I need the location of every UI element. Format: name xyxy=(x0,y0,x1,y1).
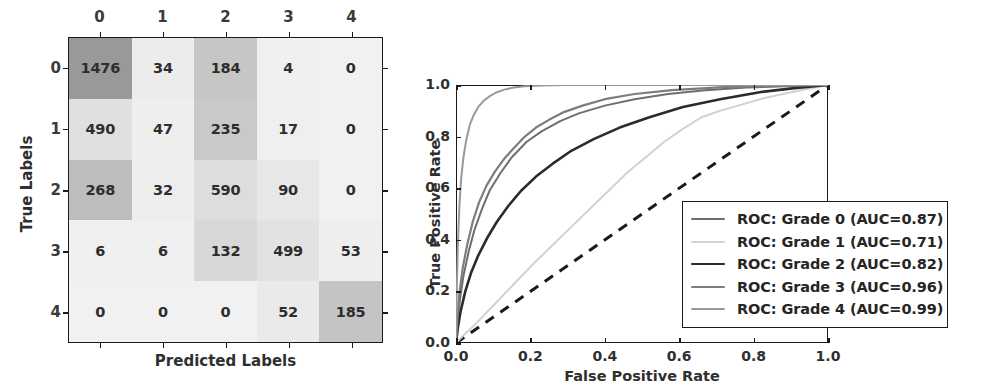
confusion-matrix-cell: 235 xyxy=(194,99,257,160)
confusion-matrix-column-tickmark xyxy=(352,343,354,348)
confusion-matrix-row-tickmark xyxy=(383,129,388,131)
roc-x-tickmark xyxy=(605,338,607,343)
roc-x-tickmark xyxy=(754,85,756,90)
confusion-matrix-column-label: 4 xyxy=(320,8,383,26)
roc-legend-line-swatch xyxy=(691,257,725,271)
confusion-matrix-row-label: 1 xyxy=(44,120,61,138)
roc-legend-label: ROC: Grade 0 (AUC=0.87) xyxy=(737,211,943,227)
confusion-matrix-column-label: 1 xyxy=(131,8,194,26)
roc-x-tick-label: 0.4 xyxy=(585,348,625,364)
confusion-matrix-row-label: 4 xyxy=(44,303,61,321)
confusion-matrix-cell: 90 xyxy=(257,160,320,221)
confusion-matrix-panel: 01234 01234 1476341844049047235170268325… xyxy=(0,0,420,390)
roc-y-tickmark xyxy=(456,291,461,293)
roc-x-tick-label: 0.0 xyxy=(436,348,476,364)
roc-x-tickmark xyxy=(828,338,830,343)
figure-canvas: 01234 01234 1476341844049047235170268325… xyxy=(0,0,989,390)
roc-x-tick-label: 0.8 xyxy=(734,348,774,364)
roc-legend-label: ROC: Grade 1 (AUC=0.71) xyxy=(737,234,943,250)
confusion-matrix-row-label: 3 xyxy=(44,242,61,260)
roc-x-axis-label: False Positive Rate xyxy=(456,368,828,384)
confusion-matrix-cell: 0 xyxy=(319,38,382,99)
roc-legend-item[interactable]: ROC: Grade 0 (AUC=0.87) xyxy=(691,208,937,231)
roc-y-tick-label: 1.0 xyxy=(414,76,450,92)
confusion-matrix-grid: 1476341844049047235170268325909006613249… xyxy=(68,37,383,343)
confusion-matrix-cell: 590 xyxy=(194,160,257,221)
roc-legend-item[interactable]: ROC: Grade 1 (AUC=0.71) xyxy=(691,231,937,254)
confusion-matrix-cell: 34 xyxy=(132,38,195,99)
confusion-matrix-column-tickmark xyxy=(289,343,291,348)
legend-line-icon xyxy=(691,263,725,265)
roc-x-tickmark xyxy=(456,85,458,90)
confusion-matrix-cell: 32 xyxy=(132,160,195,221)
roc-y-tickmark xyxy=(456,188,461,190)
roc-legend: ROC: Grade 0 (AUC=0.87)ROC: Grade 1 (AUC… xyxy=(682,201,948,328)
confusion-matrix-row-tickmark xyxy=(383,190,388,192)
confusion-matrix-cell: 17 xyxy=(257,99,320,160)
confusion-matrix-column-tickmark xyxy=(100,343,102,348)
confusion-matrix-y-axis-label: True Labels xyxy=(18,94,36,274)
roc-y-tickmark xyxy=(456,240,461,242)
roc-x-tickmark xyxy=(456,338,458,343)
roc-legend-item[interactable]: ROC: Grade 2 (AUC=0.82) xyxy=(691,253,937,276)
legend-line-icon xyxy=(691,308,725,310)
confusion-matrix-cell: 0 xyxy=(194,281,257,342)
roc-y-tickmark xyxy=(456,137,461,139)
roc-x-tickmark xyxy=(530,338,532,343)
confusion-matrix-column-label: 2 xyxy=(194,8,257,26)
confusion-matrix-column-tickmark xyxy=(226,343,228,348)
roc-x-tickmark xyxy=(679,338,681,343)
confusion-matrix-cell: 185 xyxy=(319,281,382,342)
confusion-matrix-row-label: 2 xyxy=(44,181,61,199)
confusion-matrix-cell: 0 xyxy=(319,160,382,221)
roc-x-tick-label: 0.2 xyxy=(510,348,550,364)
roc-legend-line-swatch xyxy=(691,302,725,316)
roc-legend-label: ROC: Grade 3 (AUC=0.96) xyxy=(737,279,943,295)
legend-line-icon xyxy=(691,241,725,243)
roc-legend-line-swatch xyxy=(691,212,725,226)
confusion-matrix-cell: 53 xyxy=(319,220,382,281)
confusion-matrix-cell: 132 xyxy=(194,220,257,281)
confusion-matrix-row-label: 0 xyxy=(44,59,61,77)
roc-x-tickmark xyxy=(530,85,532,90)
confusion-matrix-row-tickmark xyxy=(383,251,388,253)
roc-legend-line-swatch xyxy=(691,280,725,294)
legend-line-icon xyxy=(691,286,725,288)
roc-x-tickmark xyxy=(679,85,681,90)
confusion-matrix-cell: 0 xyxy=(132,281,195,342)
confusion-matrix-cell: 47 xyxy=(132,99,195,160)
confusion-matrix-column-label: 3 xyxy=(257,8,320,26)
confusion-matrix-cell: 499 xyxy=(257,220,320,281)
confusion-matrix-row-tickmark xyxy=(383,312,388,314)
roc-x-tickmark xyxy=(754,338,756,343)
roc-y-tickmark xyxy=(456,343,461,345)
roc-x-tick-label: 1.0 xyxy=(808,348,848,364)
confusion-matrix-cell: 6 xyxy=(132,220,195,281)
confusion-matrix-cell: 4 xyxy=(257,38,320,99)
roc-legend-item[interactable]: ROC: Grade 4 (AUC=0.99) xyxy=(691,298,937,321)
confusion-matrix-cell: 0 xyxy=(69,281,132,342)
confusion-matrix-column-label: 0 xyxy=(68,8,131,26)
roc-x-tick-label: 0.6 xyxy=(659,348,699,364)
confusion-matrix-row-tickmark xyxy=(383,68,388,70)
roc-x-tickmark xyxy=(605,85,607,90)
confusion-matrix-cell: 268 xyxy=(69,160,132,221)
confusion-matrix-cell: 6 xyxy=(69,220,132,281)
roc-legend-item[interactable]: ROC: Grade 3 (AUC=0.96) xyxy=(691,276,937,299)
roc-x-tickmark xyxy=(828,85,830,90)
roc-panel: 0.00.20.40.60.81.0 0.00.20.40.60.81.0 Fa… xyxy=(420,0,989,390)
roc-y-axis-label: True Positive Rate xyxy=(427,104,443,324)
confusion-matrix-column-tickmark xyxy=(163,343,165,348)
roc-legend-label: ROC: Grade 2 (AUC=0.82) xyxy=(737,256,943,272)
confusion-matrix-cell: 0 xyxy=(319,99,382,160)
confusion-matrix-x-axis-label: Predicted Labels xyxy=(68,352,383,370)
confusion-matrix-cell: 184 xyxy=(194,38,257,99)
legend-line-icon xyxy=(691,218,725,220)
confusion-matrix-cell: 490 xyxy=(69,99,132,160)
confusion-matrix-cell: 1476 xyxy=(69,38,132,99)
roc-legend-label: ROC: Grade 4 (AUC=0.99) xyxy=(737,301,943,317)
confusion-matrix-cell: 52 xyxy=(257,281,320,342)
roc-legend-line-swatch xyxy=(691,235,725,249)
